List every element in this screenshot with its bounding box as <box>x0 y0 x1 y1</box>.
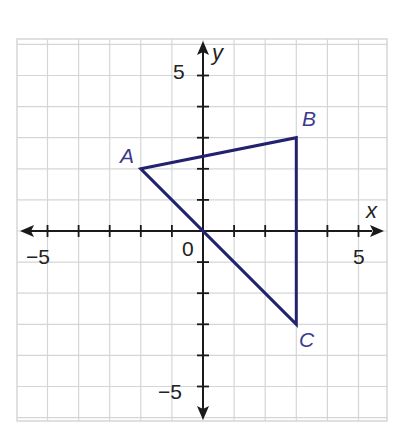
y-tick-label-5: 5 <box>173 60 185 83</box>
point-label-a: A <box>118 144 134 167</box>
point-label-b: B <box>302 107 316 130</box>
origin-label: 0 <box>182 237 194 260</box>
coordinate-plane: y x 0 −5 5 5 −5 A B C <box>0 0 402 438</box>
x-axis-label: x <box>365 198 378 223</box>
x-tick-label-neg5: −5 <box>26 245 50 268</box>
x-tick-label-5: 5 <box>353 245 365 268</box>
y-axis-label: y <box>210 40 225 65</box>
y-tick-label-neg5: −5 <box>158 380 182 403</box>
point-label-c: C <box>299 328 315 351</box>
